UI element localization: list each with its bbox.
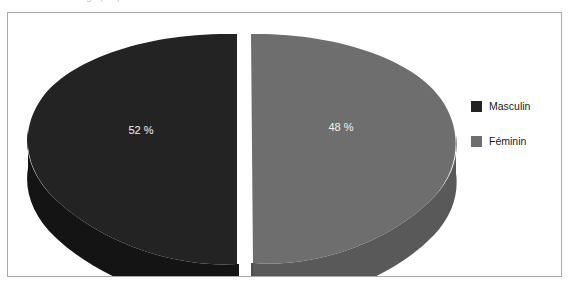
legend-item-feminin[interactable]: Féminin	[471, 134, 571, 148]
legend-item-masculin[interactable]: Masculin	[471, 99, 571, 113]
pie-slice-masculin-label: 52 %	[128, 124, 153, 136]
legend-swatch-feminin	[471, 136, 482, 147]
chart-legend: Masculin Féminin	[471, 99, 571, 169]
pie-slice-feminin[interactable]: 48 %	[251, 34, 457, 276]
pie-slice-masculin-front-wall	[237, 264, 239, 276]
legend-swatch-masculin	[471, 101, 482, 112]
clipped-caption-strip: graphique	[0, 0, 573, 6]
legend-label-feminin: Féminin	[489, 134, 526, 148]
pie-slice-feminin-cut-face	[251, 263, 253, 276]
legend-label-masculin: Masculin	[489, 99, 530, 113]
pie-slice-feminin-label: 48 %	[328, 121, 353, 133]
clipped-caption-ghost-text: graphique	[86, 0, 130, 2]
chart-frame: 52 % 48 % Masculin Féminin	[7, 12, 562, 277]
pie-slice-masculin[interactable]: 52 %	[27, 34, 239, 276]
